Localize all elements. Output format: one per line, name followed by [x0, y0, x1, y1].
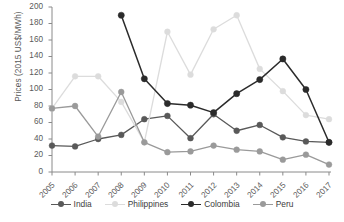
data-point	[303, 112, 309, 118]
data-point	[234, 12, 240, 18]
data-point	[118, 12, 124, 18]
data-point	[280, 157, 286, 163]
data-point	[280, 88, 286, 94]
legend-marker-icon	[105, 200, 125, 209]
data-point	[257, 66, 263, 72]
line-chart: Prices (2015 US$/MWh) 020406080100120140…	[0, 0, 344, 222]
data-point	[188, 148, 194, 154]
legend-marker-icon	[253, 200, 273, 209]
data-point	[326, 139, 332, 145]
series-philippines	[49, 12, 332, 145]
data-point	[187, 102, 193, 108]
data-point	[165, 149, 171, 155]
data-point	[280, 134, 286, 140]
chart-legend: IndiaPhilippinesColombiaPeru	[0, 199, 344, 209]
data-point	[49, 106, 55, 112]
data-point	[326, 116, 332, 122]
data-point	[95, 73, 101, 79]
data-point	[234, 147, 240, 153]
data-point	[141, 76, 147, 82]
data-point	[326, 162, 332, 168]
data-point	[210, 110, 216, 116]
data-point	[141, 116, 147, 122]
data-point	[188, 72, 194, 78]
data-point	[49, 143, 55, 149]
legend-marker-icon	[181, 200, 201, 209]
data-point	[72, 144, 78, 150]
legend-dot	[260, 201, 266, 207]
legend-item-colombia[interactable]: Colombia	[181, 199, 239, 209]
data-point	[211, 143, 217, 149]
legend-dot	[112, 201, 118, 207]
data-point	[234, 91, 240, 97]
data-point	[165, 113, 171, 119]
data-point	[303, 152, 309, 158]
series-india	[49, 111, 332, 149]
data-point	[72, 103, 78, 109]
legend-dot	[188, 201, 194, 207]
data-point	[118, 99, 124, 105]
data-point	[188, 135, 194, 141]
data-point	[95, 134, 101, 140]
legend-dot	[58, 201, 64, 207]
data-point	[257, 148, 263, 154]
series-colombia	[118, 12, 332, 145]
series-line	[52, 15, 329, 142]
legend-label: Philippines	[128, 199, 169, 209]
legend-item-philippines[interactable]: Philippines	[105, 199, 169, 209]
data-point	[257, 122, 263, 128]
data-point	[118, 89, 124, 95]
data-point	[118, 132, 124, 138]
legend-label: Peru	[276, 199, 294, 209]
data-point	[72, 73, 78, 79]
data-point	[257, 77, 263, 83]
data-point	[303, 139, 309, 145]
data-point	[165, 29, 171, 35]
data-point	[141, 139, 147, 145]
series-peru	[49, 89, 332, 167]
data-point	[164, 100, 170, 106]
legend-label: India	[74, 199, 92, 209]
data-point	[211, 26, 217, 32]
data-point	[303, 86, 309, 92]
legend-item-peru[interactable]: Peru	[253, 199, 294, 209]
data-point	[234, 128, 240, 134]
legend-item-india[interactable]: India	[51, 199, 92, 209]
legend-marker-icon	[51, 200, 71, 209]
legend-label: Colombia	[204, 199, 239, 209]
data-point	[280, 56, 286, 62]
